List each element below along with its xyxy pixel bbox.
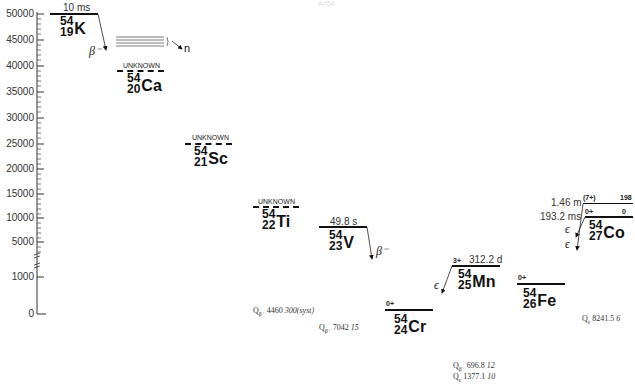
mn-spin: 3+ (453, 257, 461, 264)
co-symbol: Co (603, 224, 624, 242)
v-qvalue: Qβ⁻ 7042 15 (319, 323, 359, 334)
mn-ec-qvalue: Qε 1377.1 10 (453, 372, 495, 383)
sc-level (185, 143, 232, 145)
co-qvalue: Qε 8241.5 6 (582, 314, 620, 325)
co-ec-label-1: ϵ (565, 222, 570, 237)
cr-ground-level (385, 309, 433, 311)
ca-status: UNKNOWN (123, 62, 160, 69)
v-nuclide-label: 5423V (329, 230, 354, 252)
co-ground-halflife: 193.2 ms (540, 211, 581, 222)
co-nuclide-label: 5427Co (589, 220, 625, 242)
sc-status: UNKNOWN (192, 134, 229, 141)
ca-nuclide-label: 5420Ca (127, 73, 162, 95)
k-beta-label: β⁻ (89, 44, 101, 59)
fe-symbol: Fe (537, 292, 556, 310)
ti-status: UNKNOWN (258, 198, 295, 205)
co-z: 27 (589, 229, 602, 243)
mn-nuclide-label: 5425Mn (458, 269, 495, 291)
sc-nuclide-label: 5421Sc (194, 146, 228, 168)
ca-z: 20 (127, 82, 140, 96)
v-ground-level (319, 226, 367, 228)
cr-symbol: Cr (408, 318, 426, 336)
mn-ec-label: ϵ (434, 278, 439, 293)
co-ground-spin: 0+ (585, 208, 593, 215)
fe-nuclide-label: 5426Fe (523, 288, 556, 310)
co-isomer-spin: (7+) (583, 194, 596, 201)
ti-level (253, 206, 299, 208)
co-isomer-halflife: 1.46 m (551, 197, 582, 208)
ti-nuclide-label: 5422Ti (262, 209, 290, 231)
cr-spin: 0+ (386, 300, 394, 307)
co-ground-energy: 0 (622, 208, 626, 215)
cr-z: 24 (394, 323, 407, 337)
v-z: 23 (329, 239, 342, 253)
co-ec-label-2: ϵ (565, 237, 570, 252)
sc-z: 21 (194, 155, 207, 169)
ti-symbol: Ti (276, 213, 290, 231)
ti-z: 22 (262, 218, 275, 232)
fe-spin: 0+ (518, 274, 526, 281)
sc-symbol: Sc (208, 150, 228, 168)
v-symbol: V (343, 234, 354, 252)
ca-symbol: Ca (141, 77, 161, 95)
cr-nuclide-label: 5424Cr (394, 314, 426, 336)
ti-qvalue: Qβ⁻ 4460 300(syst) (253, 306, 314, 317)
mn-halflife: 312.2 d (469, 254, 502, 265)
fe-z: 26 (523, 297, 536, 311)
k-neutron-label: n (184, 42, 190, 54)
fe-ground-level (517, 283, 565, 285)
co-isomer-level (583, 203, 633, 204)
ca-level (117, 70, 164, 72)
mn-symbol: Mn (472, 273, 495, 291)
mn-z: 25 (458, 278, 471, 292)
co-isomer-energy: 198 (620, 194, 632, 201)
mn-beta-qvalue: Qβ⁻ 696.8 12 (453, 361, 495, 372)
v-beta-label: β⁻ (376, 244, 388, 259)
